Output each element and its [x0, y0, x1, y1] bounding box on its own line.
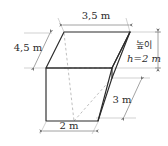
hidden-edges [64, 33, 112, 121]
label-height-caption: 높이 [136, 40, 152, 50]
front-face [46, 68, 112, 121]
extension-line-bottom-left [40, 122, 46, 134]
extension-line-bottom-right [92, 122, 98, 134]
prism-drawing: 3,5 m 4,5 m 높이 h=2 m 3 m 2 m [0, 0, 168, 146]
label-bottom-width: 2 m [59, 120, 79, 131]
hidden-edge-back-left [64, 33, 74, 121]
label-top-width: 3,5 m [82, 10, 111, 21]
label-height-value: h=2 m [127, 53, 161, 64]
solid-edges [46, 32, 130, 121]
geometry-figure: 3,5 m 4,5 m 높이 h=2 m 3 m 2 m [0, 0, 168, 146]
extension-lines [24, 18, 160, 134]
hidden-edge-back-bottom [74, 78, 112, 121]
top-face [46, 32, 130, 68]
label-left-slant: 4,5 m [14, 42, 43, 53]
label-depth: 3 m [112, 94, 132, 105]
